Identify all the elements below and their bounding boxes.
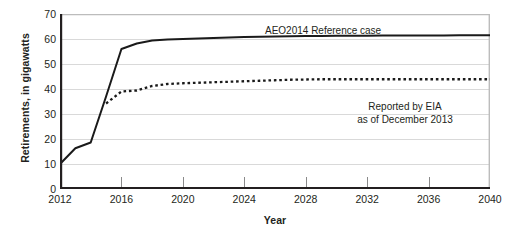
y-axis-tick-label: 70 bbox=[10, 9, 56, 20]
y-axis-tick-label: 30 bbox=[10, 109, 56, 120]
x-axis-tick-label: 2028 bbox=[276, 194, 336, 205]
x-axis-tick-label: 2036 bbox=[399, 194, 459, 205]
annotation-aeo2014-reference-case: AEO2014 Reference case bbox=[265, 24, 381, 37]
y-axis-tick-labels: 010203040506070 bbox=[0, 14, 56, 189]
x-axis-tick-label: 2020 bbox=[153, 194, 213, 205]
x-axis-title: Year bbox=[60, 214, 490, 226]
y-axis-tick-label: 20 bbox=[10, 134, 56, 145]
x-axis-tick-label: 2032 bbox=[337, 194, 397, 205]
annotation-reported-by-eia: Reported by EIA as of December 2013 bbox=[350, 100, 460, 126]
x-axis-tick-label: 2040 bbox=[460, 194, 520, 205]
x-axis-tick-label: 2012 bbox=[30, 194, 90, 205]
x-axis-tick-label: 2024 bbox=[214, 194, 274, 205]
x-axis-tick-label: 2016 bbox=[91, 194, 151, 205]
y-axis-tick-label: 50 bbox=[10, 59, 56, 70]
x-axis-tick-labels: 20122016202020242028203220362040 bbox=[60, 194, 490, 210]
y-axis-tick-label: 10 bbox=[10, 159, 56, 170]
y-axis-tick-label: 60 bbox=[10, 34, 56, 45]
y-axis-tick-label: 40 bbox=[10, 84, 56, 95]
x-axis-ticks bbox=[122, 177, 430, 188]
retirements-line-chart: Retirements, in gigawatts 01020304050607… bbox=[0, 0, 524, 249]
